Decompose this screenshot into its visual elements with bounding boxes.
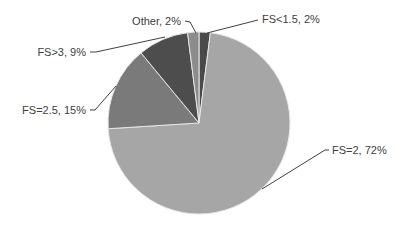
pie-slices [108,32,290,214]
leader-other [185,21,196,33]
label-fs-lt-1-5: FS<1.5, 2% [262,13,320,25]
label-fs-2-5: FS=2.5, 15% [22,104,86,116]
label-other: Other, 2% [132,15,181,27]
label-fs-gt-3: FS>3, 9% [37,46,86,58]
label-fs-2: FS=2, 72% [332,144,387,156]
pie-chart: FS<1.5, 2% FS=2, 72% FS=2.5, 15% FS>3, 9… [0,0,409,226]
leader-fs-lt-1-5 [207,20,258,33]
